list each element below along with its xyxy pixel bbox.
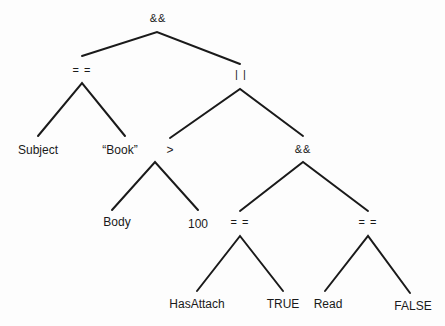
edge-root — [82, 32, 240, 64]
edge-eq1 — [38, 83, 125, 136]
edge-eq3 — [325, 236, 410, 293]
edge-and2 — [240, 162, 368, 211]
node-root-and: && — [150, 13, 167, 24]
node-subject: Subject — [18, 144, 58, 156]
node-false: FALSE — [394, 300, 431, 312]
expression-tree-diagram: && = = | | Subject “Book” > && Body 100 … — [0, 0, 445, 326]
node-greater-than: > — [166, 144, 173, 156]
node-true: TRUE — [267, 298, 300, 310]
node-hasattach: HasAttach — [169, 298, 224, 310]
node-read: Read — [314, 298, 343, 310]
edge-or1 — [170, 89, 303, 138]
node-body: Body — [103, 216, 130, 228]
edge-eq2 — [197, 236, 283, 291]
node-equals-hasattach: = = — [231, 217, 250, 228]
node-100: 100 — [188, 218, 208, 230]
node-or: | | — [235, 69, 247, 80]
edge-gt — [112, 162, 198, 210]
node-book: “Book” — [102, 144, 137, 156]
tree-edges — [0, 0, 445, 326]
node-equals-left: = = — [73, 65, 92, 76]
node-and-inner: && — [295, 144, 312, 155]
node-equals-read: = = — [359, 217, 378, 228]
